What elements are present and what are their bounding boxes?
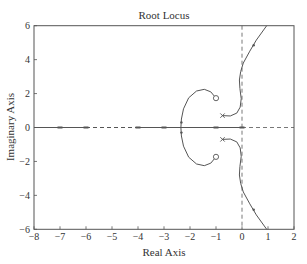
plot-area: −8−7−6−5−4−3−2−1012 −6−4−20246 (19, 20, 296, 242)
branch-arrow-marker (253, 209, 255, 211)
branch-arrow-marker (180, 131, 182, 133)
x-tick-label: 1 (266, 231, 271, 242)
zero-arc-lower (181, 128, 216, 166)
y-tick-label: 2 (25, 88, 30, 99)
x-axis-ticks: −8−7−6−5−4−3−2−1012 (29, 226, 297, 242)
zero-arc-upper (181, 89, 216, 127)
branch-arrow-marker (180, 121, 182, 123)
x-axis-label: Real Axis (142, 246, 185, 258)
x-tick-label: −8 (29, 231, 40, 242)
y-tick-label: −2 (19, 156, 30, 167)
y-axis-label: Imaginary Axis (4, 93, 16, 161)
x-tick-label: −4 (133, 231, 144, 242)
x-tick-label: 0 (240, 231, 245, 242)
y-tick-label: −6 (19, 224, 30, 235)
zero-marker (213, 154, 218, 159)
reference-lines (242, 26, 294, 230)
x-tick-label: −1 (211, 231, 222, 242)
branch-arrow-marker (253, 44, 255, 46)
x-tick-label: −3 (159, 231, 170, 242)
x-tick-label: −6 (81, 231, 92, 242)
chart-title: Root Locus (138, 9, 189, 21)
pole-branch-lower (223, 139, 267, 229)
x-tick-label: −5 (107, 231, 118, 242)
pole-branch-upper (223, 26, 267, 116)
x-tick-label: −7 (55, 231, 66, 242)
x-tick-label: −2 (185, 231, 196, 242)
y-tick-label: 6 (25, 20, 30, 31)
zero-marker (213, 96, 218, 101)
y-tick-label: 0 (25, 122, 30, 133)
y-tick-label: 4 (25, 54, 30, 65)
x-tick-label: 2 (292, 231, 297, 242)
root-locus-chart: Root Locus Real Axis Imaginary Axis −8−7… (0, 0, 307, 264)
y-tick-label: −4 (19, 190, 30, 201)
